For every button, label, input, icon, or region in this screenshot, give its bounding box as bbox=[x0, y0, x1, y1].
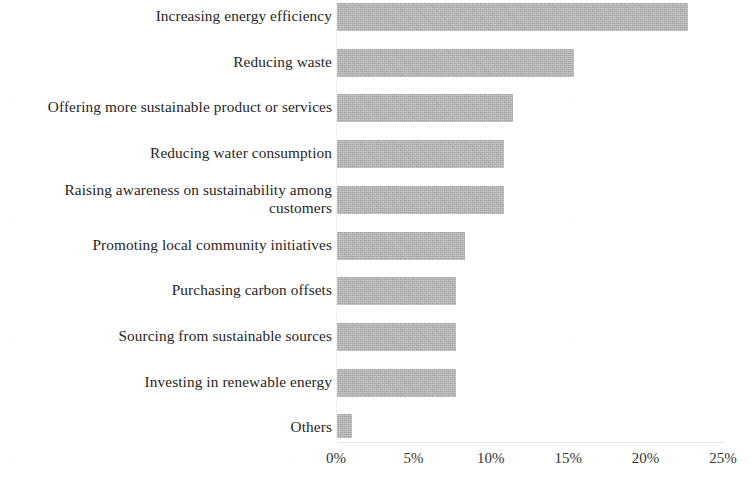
x-axis-line bbox=[337, 442, 725, 443]
x-tick-label: 0% bbox=[306, 450, 366, 467]
bar bbox=[337, 186, 504, 214]
horizontal-bar-chart: Increasing energy efficiencyReducing was… bbox=[0, 0, 751, 481]
category-label: Reducing waste bbox=[0, 53, 332, 71]
bar-row: Promoting local community initiatives bbox=[0, 232, 751, 260]
x-tick-label: 15% bbox=[538, 450, 598, 467]
x-axis-tick-labels: 0%5%10%15%20%25% bbox=[0, 450, 751, 474]
plot-area: Increasing energy efficiencyReducing was… bbox=[0, 0, 751, 445]
bar bbox=[337, 323, 456, 351]
bar-row: Reducing water consumption bbox=[0, 140, 751, 168]
bar-row: Raising awareness on sustainability amon… bbox=[0, 186, 751, 214]
bar-row: Reducing waste bbox=[0, 49, 751, 77]
bar-row: Sourcing from sustainable sources bbox=[0, 323, 751, 351]
x-tick-label: 20% bbox=[616, 450, 676, 467]
bar-row: Increasing energy efficiency bbox=[0, 3, 751, 31]
category-label: Purchasing carbon offsets bbox=[0, 281, 332, 299]
bar-row: Offering more sustainable product or ser… bbox=[0, 94, 751, 122]
bar bbox=[337, 94, 513, 122]
bar bbox=[337, 414, 352, 438]
category-label: Sourcing from sustainable sources bbox=[0, 327, 332, 345]
x-tick-label: 5% bbox=[383, 450, 443, 467]
bar-row: Investing in renewable energy bbox=[0, 369, 751, 397]
category-label: Others bbox=[0, 418, 332, 436]
category-label: Raising awareness on sustainability amon… bbox=[0, 181, 332, 217]
category-label: Reducing water consumption bbox=[0, 144, 332, 162]
bar bbox=[337, 369, 456, 397]
bar bbox=[337, 232, 465, 260]
category-label: Promoting local community initiatives bbox=[0, 236, 332, 254]
bar bbox=[337, 140, 504, 168]
category-label: Investing in renewable energy bbox=[0, 373, 332, 391]
bar bbox=[337, 49, 574, 77]
x-tick-label: 25% bbox=[693, 450, 751, 467]
bar-row: Purchasing carbon offsets bbox=[0, 277, 751, 305]
bar bbox=[337, 277, 456, 305]
category-label: Offering more sustainable product or ser… bbox=[0, 98, 332, 116]
x-tick-label: 10% bbox=[461, 450, 521, 467]
bar bbox=[337, 3, 688, 31]
category-label: Increasing energy efficiency bbox=[0, 7, 332, 25]
bar-row: Others bbox=[0, 414, 751, 442]
